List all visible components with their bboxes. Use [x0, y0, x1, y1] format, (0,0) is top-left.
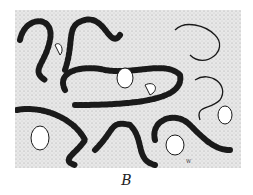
figure-label: B	[0, 172, 253, 188]
artist-signature: W	[186, 158, 191, 164]
tubule-drawing	[15, 10, 241, 168]
histology-illustration	[15, 10, 241, 168]
